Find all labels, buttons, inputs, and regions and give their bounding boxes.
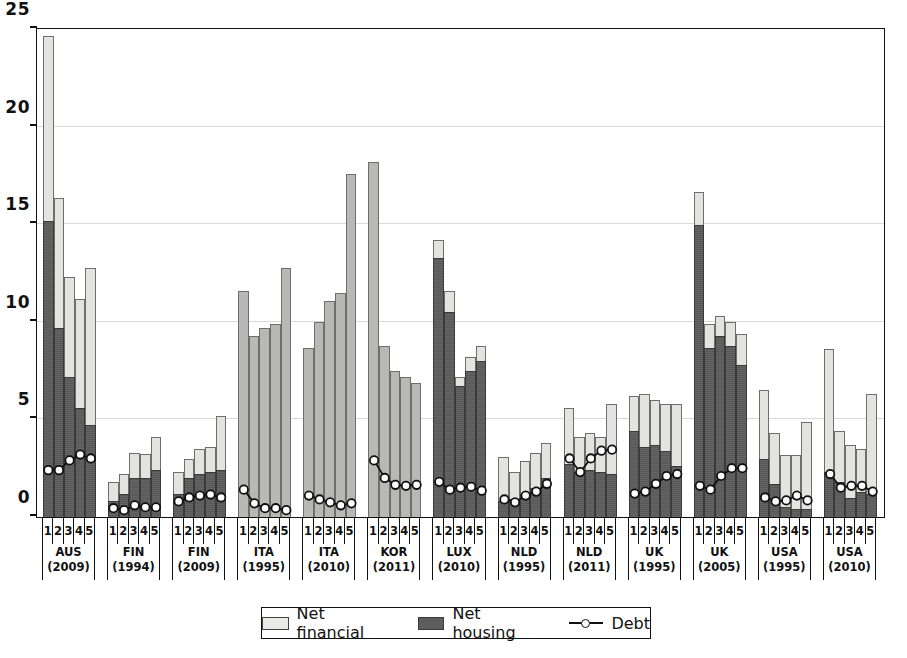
- stacked-bar: [639, 29, 650, 517]
- x-axis-group-fin: 12345FIN(1994): [107, 518, 160, 580]
- bar-segment-net-housing: [595, 472, 606, 517]
- stacked-bar: [129, 29, 140, 517]
- x-axis-quintile-tick: 4: [400, 518, 410, 544]
- y-axis-tick-label: 5: [18, 389, 30, 409]
- x-axis-quintile-tick: 2: [574, 518, 584, 544]
- x-axis-quintile-tick: 1: [238, 518, 248, 544]
- x-axis-quintile-tick: 4: [530, 518, 540, 544]
- bar-segment-net-housing: [64, 377, 75, 517]
- bar-segment-net-financial: [238, 291, 249, 517]
- stacked-bar: [585, 29, 596, 517]
- bar-segment-net-housing: [671, 466, 682, 517]
- bar-segment-net-housing: [769, 484, 780, 517]
- bar-segment-net-housing: [736, 365, 747, 517]
- bar-segment-net-housing: [119, 494, 130, 517]
- stacked-bar: [725, 29, 736, 517]
- stacked-bar: [400, 29, 411, 517]
- bar-segment-net-financial: [119, 474, 130, 493]
- chart-legend: Net financial Net housing Debt: [261, 607, 651, 639]
- x-axis-quintile-tick: 3: [129, 518, 139, 544]
- x-axis-quintile-tick: 4: [204, 518, 214, 544]
- stacked-bar: [75, 29, 86, 517]
- x-axis-quintile-tick: 3: [259, 518, 269, 544]
- x-axis-quintile-tick: 5: [85, 518, 94, 544]
- y-axis-tick-label: 25: [5, 0, 30, 19]
- bar-segment-net-housing: [433, 258, 444, 517]
- stacked-bar: [801, 29, 812, 517]
- stacked-bar: [346, 29, 357, 517]
- stacked-bar: [824, 29, 835, 517]
- bar-segment-net-housing: [824, 472, 835, 517]
- y-axis-tick-mark: [30, 319, 37, 321]
- stacked-bar: [281, 29, 292, 517]
- x-axis-quintile-tick: 4: [595, 518, 605, 544]
- bar-segment-net-housing: [520, 494, 531, 517]
- bar-segment-net-housing: [834, 482, 845, 517]
- bar-segment-net-financial: [465, 357, 476, 371]
- bar-segment-net-housing: [704, 348, 715, 517]
- stacked-bar: [704, 29, 715, 517]
- x-axis-quintile-tick: 5: [150, 518, 159, 544]
- y-axis-tick-label: 20: [5, 97, 30, 117]
- stacked-bar: [834, 29, 845, 517]
- x-axis-quintile-tick: 3: [650, 518, 660, 544]
- x-axis-group-label: AUS(2009): [43, 545, 94, 575]
- stacked-bar: [151, 29, 162, 517]
- legend-item-debt: Debt: [569, 614, 650, 633]
- x-axis-group-label: NLD(1995): [499, 545, 550, 575]
- stacked-bar: [140, 29, 151, 517]
- bar-segment-net-financial: [585, 433, 596, 470]
- stacked-bar: [520, 29, 531, 517]
- x-axis-group-lux: 12345LUX(2010): [432, 518, 485, 580]
- x-axis-group-label: ITA(1995): [238, 545, 289, 575]
- bar-segment-net-financial: [824, 349, 835, 472]
- stacked-bar: [530, 29, 541, 517]
- x-axis-quintile-tick: 1: [303, 518, 313, 544]
- stacked-bar: [108, 29, 119, 517]
- stacked-bar: [694, 29, 705, 517]
- stacked-bar: [660, 29, 671, 517]
- stacked-bar: [411, 29, 422, 517]
- plot-area: 0510152025: [36, 28, 885, 518]
- stacked-bar: [509, 29, 520, 517]
- x-axis-group-nld: 12345NLD(1995): [498, 518, 551, 580]
- y-axis-tick-label: 15: [5, 194, 30, 214]
- bar-segment-net-financial: [769, 433, 780, 484]
- x-axis-quintile-tick: 3: [64, 518, 74, 544]
- bar-segment-net-financial: [314, 322, 325, 517]
- bar-segment-net-financial: [845, 445, 856, 498]
- bar-group-lux-2010: [433, 29, 486, 517]
- x-axis-group-nld: 12345NLD(2011): [563, 518, 616, 580]
- bar-segment-net-housing: [660, 451, 671, 517]
- bar-segment-net-housing: [856, 492, 867, 517]
- x-axis-quintile-tick: 1: [564, 518, 574, 544]
- x-axis-quintile-tick: 1: [824, 518, 834, 544]
- bar-segment-net-housing: [509, 499, 520, 517]
- bar-segment-net-financial: [639, 394, 650, 447]
- legend-item-net-financial: Net financial: [262, 604, 392, 642]
- bar-segment-net-housing: [715, 336, 726, 517]
- bar-segment-net-housing: [205, 472, 216, 517]
- x-axis-group-aus: 12345AUS(2009): [42, 518, 95, 580]
- stacked-bar: [433, 29, 444, 517]
- bar-segment-net-financial: [411, 383, 422, 517]
- x-axis-quintile-tick: 1: [499, 518, 509, 544]
- stacked-bar: [119, 29, 130, 517]
- x-axis-quintile-tick: 5: [735, 518, 744, 544]
- x-axis-quintile-tick: 5: [800, 518, 809, 544]
- bar-segment-net-financial: [476, 346, 487, 362]
- bar-segment-net-financial: [281, 268, 292, 517]
- x-axis-quintile-tick: 5: [605, 518, 614, 544]
- stacked-bar: [574, 29, 585, 517]
- bar-segment-net-housing: [845, 498, 856, 517]
- net-financial-swatch-icon: [262, 617, 289, 630]
- stacked-bar: [541, 29, 552, 517]
- y-axis-tick-mark: [30, 416, 37, 418]
- bar-segment-net-housing: [444, 312, 455, 517]
- bar-group-fin-1994: [108, 29, 161, 517]
- x-axis-group-label: UK(1995): [629, 545, 680, 575]
- stacked-bar: [85, 29, 96, 517]
- bar-segment-net-financial: [390, 371, 401, 517]
- stacked-bar: [173, 29, 184, 517]
- bar-segment-net-housing: [791, 509, 802, 517]
